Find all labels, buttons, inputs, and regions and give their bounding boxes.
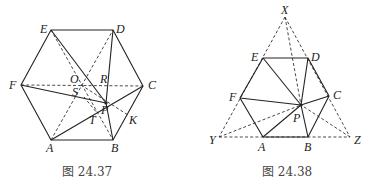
label-r: R bbox=[99, 72, 108, 86]
label-t: T bbox=[89, 113, 97, 127]
segment-bp bbox=[301, 105, 308, 137]
hexagon-abcdef-2 bbox=[240, 58, 329, 137]
label-k: K bbox=[128, 113, 138, 127]
label-e: E bbox=[39, 22, 48, 36]
label-a: A bbox=[45, 141, 54, 155]
label-c-2: C bbox=[333, 88, 342, 102]
segment-fp bbox=[21, 85, 106, 103]
segment-ep bbox=[263, 58, 301, 105]
label-d-2: D bbox=[310, 50, 320, 64]
label-f: F bbox=[8, 78, 17, 92]
label-p: P bbox=[100, 103, 109, 117]
figure-24-37: E D F C A B O R S P T K 图 24.37 bbox=[8, 22, 157, 179]
segment-dp bbox=[301, 58, 308, 105]
label-a-2: A bbox=[257, 140, 266, 154]
label-p-2: P bbox=[292, 111, 301, 125]
point-p-2 bbox=[299, 103, 302, 106]
dashed-line-zp bbox=[301, 105, 350, 137]
dashed-line-xp bbox=[285, 17, 301, 105]
figures-canvas: E D F C A B O R S P T K 图 24.37 X E D F bbox=[0, 0, 371, 190]
label-d: D bbox=[115, 22, 125, 36]
label-y: Y bbox=[209, 133, 217, 147]
label-f-2: F bbox=[228, 90, 237, 104]
label-e-2: E bbox=[250, 50, 259, 64]
label-b: B bbox=[111, 141, 119, 155]
figure-24-38: X E D F C P Y A B Z 图 24.38 bbox=[209, 3, 361, 179]
label-b-2: B bbox=[304, 140, 312, 154]
segment-fp bbox=[240, 98, 301, 105]
caption-24-37: 图 24.37 bbox=[62, 165, 112, 179]
segment-ep bbox=[51, 30, 106, 103]
caption-24-38: 图 24.38 bbox=[262, 165, 312, 179]
label-x: X bbox=[280, 3, 289, 17]
label-s: S bbox=[72, 85, 78, 99]
label-c: C bbox=[148, 78, 157, 92]
segment-dp bbox=[106, 30, 113, 103]
label-o: O bbox=[70, 72, 79, 86]
label-z: Z bbox=[354, 133, 361, 147]
